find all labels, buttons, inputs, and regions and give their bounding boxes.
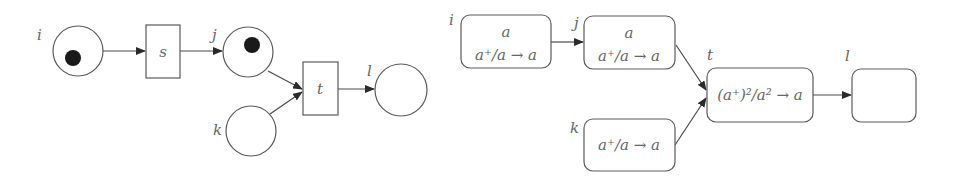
node-k[interactable]: a⁺/a → a k xyxy=(570,119,675,171)
token-icon xyxy=(65,50,81,66)
node-j-line-2: a⁺/a → a xyxy=(598,47,660,65)
place-j-label: j xyxy=(209,26,217,44)
transition-t-label: t xyxy=(317,80,324,98)
node-t[interactable]: (a⁺)²/a² → a t xyxy=(707,46,813,122)
place-k-circle[interactable] xyxy=(226,106,276,156)
place-l-label: l xyxy=(367,62,372,80)
node-l[interactable]: l xyxy=(845,47,916,122)
place-l-circle[interactable] xyxy=(375,64,427,116)
token-icon xyxy=(244,37,260,53)
place-k-label: k xyxy=(213,121,222,139)
arc-j-to-t xyxy=(676,45,706,90)
place-i-label: i xyxy=(37,26,42,44)
diagram-canvas: i s j k t l xyxy=(0,0,954,183)
node-t-label: t xyxy=(707,46,714,64)
place-l[interactable]: l xyxy=(367,62,427,116)
arc-j-to-t xyxy=(268,71,302,89)
node-l-label: l xyxy=(845,47,850,65)
node-j[interactable]: a a⁺/a → a j xyxy=(571,14,675,69)
transition-s[interactable]: s xyxy=(146,25,180,78)
node-k-line-1: a⁺/a → a xyxy=(598,136,660,154)
node-t-line-1: (a⁺)²/a² → a xyxy=(717,86,803,104)
node-j-line-1: a xyxy=(625,24,634,42)
transition-t[interactable]: t xyxy=(303,62,338,115)
petri-net-diagram: i s j k t l xyxy=(37,25,427,156)
node-i[interactable]: a a⁺/a → a i xyxy=(449,11,551,68)
transition-s-label: s xyxy=(159,43,167,61)
arc-k-to-t xyxy=(270,92,302,114)
node-k-label: k xyxy=(570,119,579,137)
rewriting-net-diagram: a a⁺/a → a i a a⁺/a → a j a⁺/a → a k (a⁺… xyxy=(449,11,916,171)
node-i-label: i xyxy=(449,11,454,29)
node-j-label: j xyxy=(571,14,579,32)
place-k[interactable]: k xyxy=(213,106,276,156)
node-l-box[interactable] xyxy=(852,69,916,122)
arc-k-to-t xyxy=(675,98,706,145)
node-i-line-2: a⁺/a → a xyxy=(475,46,537,64)
place-i-circle[interactable] xyxy=(53,26,103,76)
place-i[interactable]: i xyxy=(37,26,103,76)
node-i-line-1: a xyxy=(502,23,511,41)
place-j-circle[interactable] xyxy=(223,27,273,77)
